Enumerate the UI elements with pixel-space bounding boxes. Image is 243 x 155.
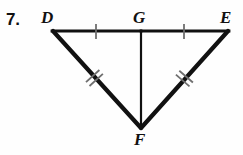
segment-FE [141,31,228,128]
vertex-label-d: D [41,9,53,27]
vertex-label-g: G [133,9,145,27]
vertex-label-e: E [220,9,231,27]
geometry-figure: 7. D G E F [0,0,243,155]
vertex-label-f: F [134,131,145,149]
triangle-diagram [0,0,243,155]
